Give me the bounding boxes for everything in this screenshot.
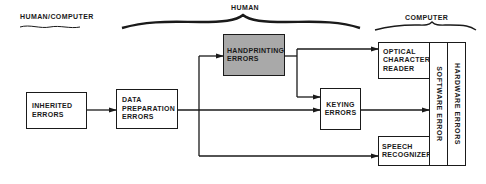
node-label-line: KEYING: [326, 101, 355, 110]
node-label-line: RECOGNIZER: [382, 151, 429, 160]
section-label-human-computer: HUMAN/COMPUTER: [20, 13, 94, 20]
node-label-line: HANDPRINTING: [227, 47, 284, 56]
error-sources-diagram: HUMAN/COMPUTER HUMAN COMPUTER INHERITED …: [0, 0, 486, 184]
section-label-human: HUMAN: [231, 4, 259, 11]
node-label-line: DATA: [122, 96, 177, 105]
node-label-line: CHARACTER: [383, 56, 429, 65]
brace-human-computer: [20, 26, 80, 28]
node-optical-character-reader: OPTICAL CHARACTER READER: [378, 42, 430, 79]
node-label-line: ERRORS: [122, 113, 177, 122]
brace-computer: [375, 22, 476, 30]
node-data-preparation-errors: DATA PREPARATION ERRORS: [116, 89, 178, 129]
node-label-line: SPEECH: [382, 143, 429, 152]
node-label-line: INHERITED: [32, 102, 86, 111]
node-inherited-errors: INHERITED ERRORS: [26, 92, 87, 129]
node-keying-errors: KEYING ERRORS: [320, 88, 361, 130]
node-software-error: SOFTWARE ERROR: [429, 42, 448, 166]
node-label-line: READER: [383, 65, 429, 74]
node-label-line: ERRORS: [32, 111, 86, 120]
node-label-line: OPTICAL: [383, 48, 429, 57]
section-label-computer: COMPUTER: [405, 14, 448, 21]
brace-human: [122, 15, 360, 28]
node-label-line: PREPARATION: [122, 105, 177, 114]
node-label-line: ERRORS: [227, 55, 284, 64]
node-handprinting-errors: HANDPRINTING ERRORS: [223, 34, 285, 76]
node-label: HARDWARE ERRORS: [453, 63, 460, 145]
node-hardware-errors: HARDWARE ERRORS: [447, 42, 466, 166]
node-speech-recognizer: SPEECH RECOGNIZER: [378, 136, 430, 166]
node-label-line: ERRORS: [325, 109, 357, 118]
node-label: SOFTWARE ERROR: [435, 66, 442, 141]
